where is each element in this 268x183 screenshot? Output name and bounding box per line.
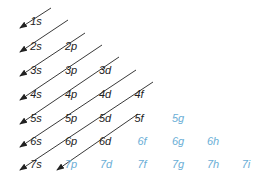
orbital-7f: 7f — [137, 158, 146, 170]
orbital-6s: 6s — [30, 135, 42, 147]
orbital-5g: 5g — [172, 112, 184, 124]
orbital-7s: 7s — [30, 158, 42, 170]
orbital-6f: 6f — [137, 135, 146, 147]
orbital-3s: 3s — [30, 64, 42, 76]
orbital-7h: 7h — [207, 158, 219, 170]
orbital-6p: 6p — [65, 135, 77, 147]
orbital-7p: 7p — [65, 158, 77, 170]
orbital-5s: 5s — [30, 112, 42, 124]
arrow-2s-icon — [20, 20, 68, 52]
orbital-6h: 6h — [207, 135, 219, 147]
orbital-2s: 2s — [30, 40, 42, 52]
aufbau-diagram: 1s2s2p3s3p3d4s4p4d4f5s5p5d5f5g6s6p6d6f6g… — [0, 0, 268, 183]
orbital-7g: 7g — [172, 158, 184, 170]
orbital-4f: 4f — [134, 88, 143, 100]
orbital-5d: 5d — [99, 112, 111, 124]
orbital-6d: 6d — [99, 135, 111, 147]
orbital-6g: 6g — [172, 135, 184, 147]
orbital-3p: 3p — [65, 64, 77, 76]
orbital-2p: 2p — [65, 40, 77, 52]
orbital-4d: 4d — [99, 88, 111, 100]
orbital-7d: 7d — [100, 158, 112, 170]
orbital-4s: 4s — [30, 88, 42, 100]
orbital-7i: 7i — [242, 158, 251, 170]
orbital-4p: 4p — [65, 88, 77, 100]
orbital-5f: 5f — [134, 112, 143, 124]
orbital-3d: 3d — [99, 64, 111, 76]
orbital-1s: 1s — [30, 15, 42, 27]
orbital-5p: 5p — [65, 112, 77, 124]
